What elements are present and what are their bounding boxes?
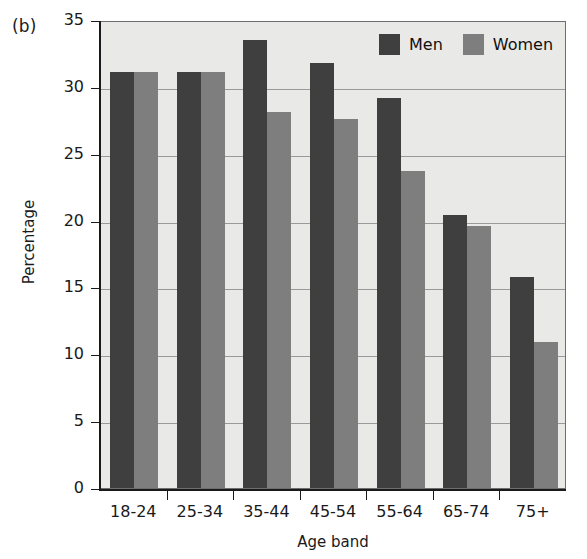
y-tick-label: 20	[28, 211, 84, 230]
bar-women-65-74	[467, 226, 491, 488]
y-tick	[91, 422, 99, 423]
y-tick-label: 0	[28, 478, 84, 497]
bar-men-35-44	[243, 40, 267, 488]
bar-women-75+	[534, 342, 558, 488]
bar-women-45-54	[334, 119, 358, 488]
x-tick-label: 45-54	[300, 502, 367, 521]
x-tick-label: 18-24	[100, 502, 167, 521]
x-tick	[167, 491, 168, 500]
legend-entry-women: Women	[463, 34, 553, 55]
y-tick	[91, 222, 99, 223]
bar-men-45-54	[310, 63, 334, 488]
y-tick-label: 35	[28, 10, 84, 29]
bar-men-65-74	[443, 215, 467, 488]
y-tick-label: 5	[28, 411, 84, 430]
legend-label-men: Men	[409, 35, 443, 54]
x-axis-line	[99, 489, 566, 491]
x-tick	[233, 491, 234, 500]
y-tick	[91, 288, 99, 289]
legend-swatch-men-icon	[379, 34, 400, 55]
y-axis-line	[99, 21, 101, 490]
x-tick	[499, 491, 500, 500]
y-tick	[91, 489, 99, 490]
x-tick	[433, 491, 434, 500]
x-tick-label: 65-74	[433, 502, 500, 521]
y-tick	[91, 355, 99, 356]
y-tick-label: 10	[28, 344, 84, 363]
legend: Men Women	[379, 34, 553, 55]
y-tick	[91, 88, 99, 89]
legend-label-women: Women	[493, 35, 553, 54]
bar-women-25-34	[201, 72, 225, 488]
x-axis-title: Age band	[100, 533, 566, 551]
bar-women-55-64	[401, 171, 425, 488]
y-tick-label: 30	[28, 77, 84, 96]
legend-entry-men: Men	[379, 34, 443, 55]
bar-women-35-44	[267, 112, 291, 488]
bar-chart-figure: (b) Percentage Age band Men Women 051015…	[0, 0, 587, 559]
x-tick-label: 75+	[499, 502, 566, 521]
x-tick-label: 55-64	[366, 502, 433, 521]
legend-swatch-women-icon	[463, 34, 484, 55]
y-tick	[91, 155, 99, 156]
bar-women-18-24	[134, 72, 158, 488]
y-tick-label: 25	[28, 144, 84, 163]
plot-area: Men Women	[100, 21, 566, 489]
x-tick	[300, 491, 301, 500]
bar-men-25-34	[177, 72, 201, 488]
x-tick	[366, 491, 367, 500]
bar-men-75+	[510, 277, 534, 488]
bar-men-55-64	[377, 98, 401, 488]
bar-men-18-24	[110, 72, 134, 488]
x-tick-label: 25-34	[167, 502, 234, 521]
x-tick-label: 35-44	[233, 502, 300, 521]
y-tick-label: 15	[28, 277, 84, 296]
y-tick	[91, 21, 99, 22]
